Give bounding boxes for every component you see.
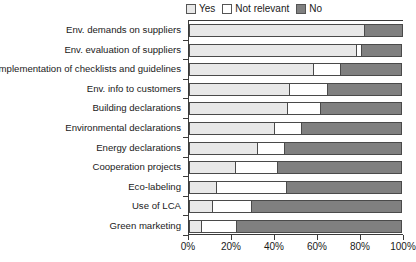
y-axis-tick xyxy=(183,137,188,138)
legend-label: No xyxy=(309,4,322,14)
y-axis-tick xyxy=(183,98,188,99)
legend-swatch-icon xyxy=(296,4,306,14)
x-axis-tick-label: 20% xyxy=(221,241,241,253)
bar-segment-yes xyxy=(189,24,365,37)
y-axis-tick xyxy=(183,215,188,216)
bar-segment-yes xyxy=(189,83,290,96)
bar-segment-no xyxy=(301,122,402,135)
y-axis-label: Use of LCA xyxy=(132,199,181,212)
legend-label: Not relevant xyxy=(235,4,289,14)
x-axis-tick-label: 60% xyxy=(307,241,327,253)
x-axis-tick xyxy=(231,235,232,240)
x-axis-tick xyxy=(317,235,318,240)
y-axis-label: Cooperation projects xyxy=(92,160,181,173)
x-axis-tick-label: 40% xyxy=(264,241,284,253)
y-axis-tick xyxy=(183,59,188,60)
bar-segment-no xyxy=(251,200,402,213)
bar-segment-yes xyxy=(189,102,288,115)
plot-area xyxy=(188,20,403,235)
y-axis-category-labels: Env. demands on suppliersEnv. evaluation… xyxy=(0,20,185,235)
table-row xyxy=(189,44,403,57)
bar-segment-not-relevant xyxy=(313,63,341,76)
bar-segment-yes xyxy=(189,161,236,174)
legend-swatch-icon xyxy=(186,4,196,14)
table-row xyxy=(189,122,403,135)
bar-segment-no xyxy=(284,142,402,155)
bar-segment-not-relevant xyxy=(257,142,285,155)
bar-segment-not-relevant xyxy=(287,102,321,115)
y-axis-label: Env. info to customers xyxy=(87,82,181,95)
y-axis-label: Energy declarations xyxy=(96,141,181,154)
table-row xyxy=(189,220,403,233)
bar-segment-not-relevant xyxy=(212,200,253,213)
bar-segment-no xyxy=(340,63,402,76)
x-axis-tick-label: 80% xyxy=(350,241,370,253)
y-axis-label: Building declarations xyxy=(92,101,181,114)
table-row xyxy=(189,63,403,76)
bar-segment-yes xyxy=(189,44,357,57)
table-row xyxy=(189,200,403,213)
y-axis-tick xyxy=(183,157,188,158)
x-axis-tick xyxy=(274,235,275,240)
x-axis-tick-label: 0% xyxy=(181,241,195,253)
y-axis-tick xyxy=(183,79,188,80)
y-axis-label: Environmental declarations xyxy=(65,121,181,134)
table-row xyxy=(189,181,403,194)
y-axis-tick xyxy=(183,176,188,177)
y-axis-label: Implementation of checklists and guideli… xyxy=(0,62,181,75)
bar-segment-not-relevant xyxy=(235,161,278,174)
bar-segment-yes xyxy=(189,122,275,135)
chart-legend: YesNot relevantNo xyxy=(186,2,322,16)
y-axis-tick xyxy=(183,40,188,41)
y-axis-label: Env. demands on suppliers xyxy=(66,23,181,36)
table-row xyxy=(189,24,403,37)
bar-segment-yes xyxy=(189,63,314,76)
x-axis-tick xyxy=(403,235,404,240)
table-row xyxy=(189,102,403,115)
bar-segment-no xyxy=(364,24,403,37)
bar-segment-not-relevant xyxy=(216,181,287,194)
x-axis-tick xyxy=(188,235,189,240)
y-axis-tick xyxy=(183,196,188,197)
bar-segment-no xyxy=(327,83,402,96)
table-row xyxy=(189,83,403,96)
y-axis-label: Eco-labeling xyxy=(128,180,181,193)
bar-segment-no xyxy=(236,220,402,233)
y-axis-label: Green marketing xyxy=(110,219,181,232)
y-axis-label: Env. evaluation of suppliers xyxy=(64,43,181,56)
legend-swatch-icon xyxy=(222,4,232,14)
legend-label: Yes xyxy=(199,4,215,14)
x-axis-tick-label: 100% xyxy=(390,241,416,253)
legend-entry: Not relevant xyxy=(222,4,289,14)
x-axis-tick xyxy=(360,235,361,240)
y-axis-tick xyxy=(183,118,188,119)
bar-segment-not-relevant xyxy=(289,83,328,96)
bar-segment-not-relevant xyxy=(201,220,238,233)
bar-segment-no xyxy=(320,102,402,115)
table-row xyxy=(189,161,403,174)
bar-segment-no xyxy=(286,181,402,194)
bar-segment-no xyxy=(277,161,402,174)
bar-segment-not-relevant xyxy=(274,122,302,135)
bar-segment-yes xyxy=(189,142,258,155)
bar-segment-yes xyxy=(189,181,217,194)
legend-entry: No xyxy=(296,4,322,14)
bar-segment-yes xyxy=(189,200,213,213)
table-row xyxy=(189,142,403,155)
bar-segment-no xyxy=(361,44,402,57)
legend-entry: Yes xyxy=(186,4,215,14)
